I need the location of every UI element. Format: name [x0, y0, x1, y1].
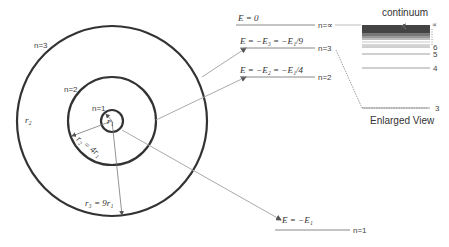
connector-n1: [122, 130, 281, 220]
enlarged-label-5: 5: [433, 50, 438, 59]
continuum-band: [362, 25, 430, 33]
r2-label: r₂ = 4r₁: [75, 134, 103, 159]
connector-n2: [156, 77, 246, 120]
level-n2-n: n=2: [318, 73, 332, 82]
level-n3-energy: E = −E₃ = −E₁/9: [239, 36, 304, 46]
radius-r2-arrow: [72, 121, 112, 136]
level-n1-energy: E = −E₁: [281, 215, 313, 225]
level-inf-n: n=∝: [318, 21, 333, 30]
enlarged-view-title: Enlarged View: [370, 115, 435, 126]
orbit-n1-label: n=1: [92, 104, 106, 113]
r1-label: r₁: [107, 116, 114, 126]
orbit-n3-label: n=3: [34, 41, 48, 50]
outer-r-label: r₂: [25, 115, 32, 125]
enlarged-label-3: 3: [435, 104, 440, 113]
enlarged-label-inf: ∝: [432, 21, 437, 28]
orbit-n2-label: n=2: [64, 85, 78, 94]
level-n1-n: n=1: [353, 226, 367, 235]
enlarged-label-4: 4: [433, 64, 438, 73]
enlarge-connector-bottom: [336, 50, 428, 108]
level-n3-n: n=3: [318, 44, 332, 53]
level-n2-energy: E = −E₂ = −E₁/4: [239, 65, 304, 75]
level-inf-energy: E = 0: [237, 13, 259, 23]
bohr-model-diagram: n=3 n=2 n=1 r₁ r₂ r₂ = 4r₁ r₃ = 9r₁ E = …: [0, 0, 449, 247]
continuum-label: continuum: [382, 7, 428, 18]
radius-r3-arrow: [112, 121, 122, 215]
r3-label: r₃ = 9r₁: [85, 198, 113, 208]
